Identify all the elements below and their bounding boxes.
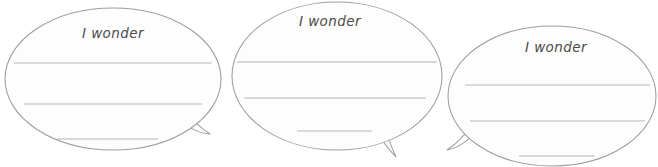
- speech-bubble-3[interactable]: I wonder: [447, 26, 656, 166]
- speech-bubble-1[interactable]: I wonder: [5, 8, 221, 150]
- bubble-2-prompt-text: I wonder: [299, 13, 362, 29]
- bubble-1-prompt-text: I wonder: [82, 25, 145, 41]
- worksheet-canvas: I wonder I wonder I wonder: [0, 0, 658, 167]
- speech-bubble-2[interactable]: I wonder: [232, 2, 442, 157]
- speech-bubble-worksheet: I wonder I wonder I wonder: [0, 0, 658, 167]
- bubble-3-prompt-text: I wonder: [525, 39, 588, 55]
